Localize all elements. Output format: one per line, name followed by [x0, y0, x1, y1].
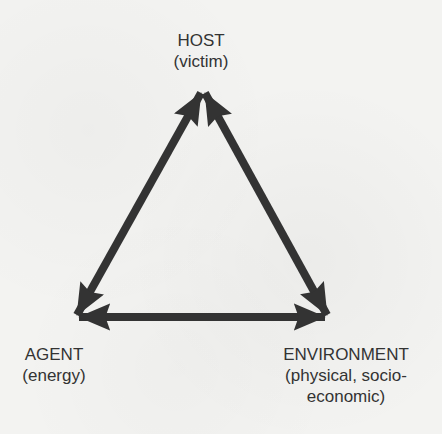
host-title: HOST	[141, 30, 261, 51]
agent-title: AGENT	[0, 344, 114, 365]
environment-subtitle-line1: (physical, socio-	[250, 365, 442, 386]
arrow-host-environment	[205, 93, 327, 315]
environment-label: ENVIRONMENT (physical, socio- economic)	[250, 344, 442, 407]
arrow-host-agent	[77, 93, 201, 315]
host-label: HOST (victim)	[141, 30, 261, 72]
host-subtitle: (victim)	[141, 51, 261, 72]
environment-title: ENVIRONMENT	[250, 344, 442, 365]
agent-subtitle: (energy)	[0, 365, 114, 386]
agent-label: AGENT (energy)	[0, 344, 114, 386]
environment-subtitle-line2: economic)	[250, 386, 442, 407]
